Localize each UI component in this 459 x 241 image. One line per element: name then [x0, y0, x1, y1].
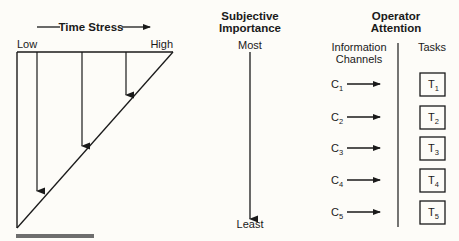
attention-title-line2: Attention — [371, 22, 421, 34]
importance-title-line2: Importance — [219, 22, 281, 34]
importance-title-line1: Subjective — [221, 10, 279, 22]
low-label: Low — [17, 38, 37, 50]
channels-header-line2: Channels — [336, 53, 383, 65]
attention-title-line1: Operator — [372, 10, 421, 22]
channel-label: C1 — [331, 78, 343, 93]
task-label: T4 — [428, 174, 439, 189]
time-stress-title: Time Stress — [59, 21, 124, 33]
channel-task-rows: C1C2C3C4C5T1T2T3T4T5 — [331, 73, 445, 224]
task-label: T1 — [428, 78, 439, 93]
task-label: T5 — [428, 206, 439, 221]
task-label: T2 — [428, 111, 439, 126]
channel-label: C4 — [331, 174, 343, 189]
channel-label: C3 — [331, 142, 343, 157]
most-label: Most — [238, 39, 262, 51]
diagram-canvas: Time Stress Low High Subjective Importan… — [0, 0, 459, 241]
channel-label: C5 — [331, 206, 343, 221]
high-label: High — [150, 38, 173, 50]
time-stress-header: Time Stress — [37, 21, 150, 33]
triangle-hypotenuse — [17, 52, 173, 228]
task-label: T3 — [428, 142, 439, 157]
least-label: Least — [237, 218, 264, 230]
channel-label: C2 — [331, 111, 343, 126]
tasks-header: Tasks — [418, 41, 447, 53]
time-stress-triangle — [17, 52, 173, 228]
channels-header-line1: Information — [331, 41, 386, 53]
footer-bar — [16, 234, 94, 238]
